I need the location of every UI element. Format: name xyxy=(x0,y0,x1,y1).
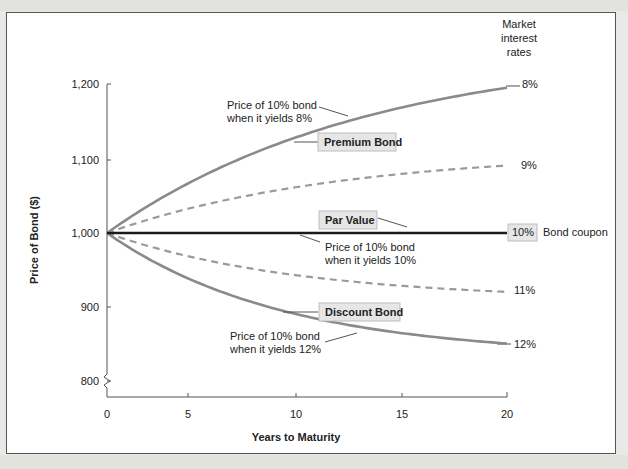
annotation-12-line-1: Price of 10% bond xyxy=(230,330,320,342)
annotation-10-leader xyxy=(300,235,320,242)
x-axis-title: Years to Maturity xyxy=(252,431,342,443)
curve-12-percent xyxy=(107,233,507,344)
rate-label-9: 9% xyxy=(521,159,537,171)
bond-price-chart: 1,200 1,100 1,000 900 800 0 5 10 15 20 Y… xyxy=(0,0,628,469)
curve-11-percent xyxy=(107,233,507,292)
annotation-8-line-2: when it yields 8% xyxy=(226,112,312,124)
rate-label-10: 10% xyxy=(512,226,534,238)
rate-label-11: 11% xyxy=(514,284,535,296)
x-tick-10: 10 xyxy=(290,408,302,420)
annotation-12-leader xyxy=(325,333,357,342)
legend-title-line-2: interest xyxy=(501,32,537,44)
par-value-leader xyxy=(378,218,407,227)
curve-9-percent xyxy=(107,165,507,233)
y-tick-800: 800 xyxy=(81,375,99,387)
legend-title-line-3: rates xyxy=(507,46,532,58)
bond-coupon-label: Bond coupon xyxy=(543,226,608,238)
y-tick-1200: 1,200 xyxy=(71,78,99,90)
annotation-8-line-1: Price of 10% bond xyxy=(227,99,317,111)
premium-bond-label: Premium Bond xyxy=(324,136,402,148)
x-tick-0: 0 xyxy=(104,408,110,420)
annotation-10-line-1: Price of 10% bond xyxy=(325,241,415,253)
x-tick-15: 15 xyxy=(396,408,408,420)
discount-bond-label: Discount Bond xyxy=(325,306,403,318)
annotation-10-line-2: when it yields 10% xyxy=(324,254,416,266)
x-tick-20: 20 xyxy=(501,408,513,420)
annotation-12-line-2: when it yields 12% xyxy=(229,343,321,355)
y-tick-900: 900 xyxy=(81,301,99,313)
y-axis-title: Price of Bond ($) xyxy=(28,196,40,284)
y-tick-1000: 1,000 xyxy=(71,227,99,239)
y-tick-1100: 1,100 xyxy=(71,154,99,166)
rate-label-8: 8% xyxy=(522,78,538,90)
par-value-label: Par Value xyxy=(325,214,375,226)
x-tick-5: 5 xyxy=(185,408,191,420)
rate-label-12: 12% xyxy=(514,338,536,350)
curves xyxy=(107,88,507,344)
annotation-8-leader xyxy=(319,107,348,116)
legend-title-line-1: Market xyxy=(502,18,536,30)
y-axis xyxy=(104,84,111,397)
x-axis xyxy=(107,392,507,397)
